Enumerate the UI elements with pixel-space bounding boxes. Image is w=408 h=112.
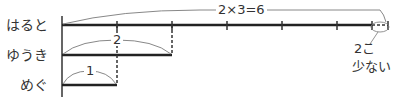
difference-less-label: 少ない xyxy=(352,60,391,73)
yuuki-value-label: 2 xyxy=(111,33,123,46)
difference-count-label: 2こ xyxy=(354,42,375,55)
haruto-total-label: 2×3=6 xyxy=(216,3,267,16)
row-label-megu: めぐ xyxy=(20,78,48,92)
row-label-haruto: はると xyxy=(6,18,48,32)
row-label-yuuki: ゆうき xyxy=(6,48,48,62)
tape-diagram xyxy=(0,0,408,112)
difference-circle xyxy=(371,22,389,32)
megu-value-label: 1 xyxy=(84,64,96,77)
